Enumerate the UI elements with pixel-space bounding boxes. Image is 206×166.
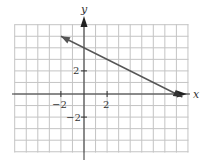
x-tick-label-2: 2 bbox=[103, 99, 109, 110]
grid bbox=[15, 24, 189, 152]
x-tick-label-neg2: −2 bbox=[52, 99, 67, 110]
coordinate-plane-chart: y x −2 2 2 −2 bbox=[0, 0, 206, 166]
y-axis-arrow-icon bbox=[81, 16, 88, 27]
y-tick-label-neg2: −2 bbox=[66, 112, 81, 123]
x-axis-label: x bbox=[193, 88, 200, 101]
arrowhead-left-icon bbox=[61, 36, 71, 43]
y-tick-label-2: 2 bbox=[73, 65, 79, 76]
y-axis-label: y bbox=[80, 3, 88, 16]
